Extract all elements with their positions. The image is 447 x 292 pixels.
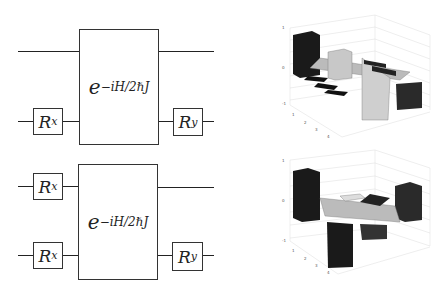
ry-gate: Ry xyxy=(172,242,203,271)
bar3d-chart xyxy=(280,146,447,292)
z-tick: -1 xyxy=(282,238,286,243)
x-tick: 4 xyxy=(327,134,330,139)
rx-gate: Rx xyxy=(33,108,63,135)
ry-gate: Ry xyxy=(173,108,203,136)
density-matrix-plot-bottom: 1 0 -1 1 2 3 4 xyxy=(280,146,447,292)
qubit-wire-1-left xyxy=(18,51,79,52)
qubit-wire-1-left-b xyxy=(63,186,79,187)
z-tick: -1 xyxy=(282,101,286,106)
density-matrix-plot-top: 1 0 -1 1 2 3 4 xyxy=(280,0,447,146)
qubit-wire-2-right-a xyxy=(158,121,173,122)
circuit-bottom: Rx Rx e−iH/2ℏJ Ry xyxy=(0,146,230,292)
qubit-wire-1-left-a xyxy=(18,186,33,187)
z-tick: 1 xyxy=(282,25,285,30)
rx-gate-qubit-1: Rx xyxy=(33,173,63,200)
qubit-wire-2-left-a xyxy=(18,121,33,122)
qubit-wire-2-left-a xyxy=(18,255,33,256)
z-tick: 0 xyxy=(282,198,285,203)
x-tick: 3 xyxy=(315,127,318,132)
qubit-wire-2-right-b xyxy=(203,121,214,122)
x-tick: 1 xyxy=(292,248,295,253)
x-tick: 3 xyxy=(315,263,318,268)
z-tick: 1 xyxy=(282,158,285,163)
z-tick: 0 xyxy=(282,65,285,70)
unitary-evolution-gate: e−iH/2ℏJ xyxy=(79,29,159,145)
qubit-wire-1-right xyxy=(158,187,214,188)
circuit-top: Rx e−iH/2ℏJ Ry xyxy=(0,0,230,146)
qubit-wire-2-right-a xyxy=(158,255,173,256)
qubit-wire-2-left-b xyxy=(63,121,79,122)
x-tick: 1 xyxy=(292,112,295,117)
x-tick: 4 xyxy=(327,270,330,275)
unitary-evolution-gate: e−iH/2ℏJ xyxy=(78,164,158,280)
qubit-wire-1-right xyxy=(158,51,214,52)
qubit-wire-2-left-b xyxy=(63,255,79,256)
qubit-wire-2-right-b xyxy=(203,255,214,256)
rx-gate-qubit-2: Rx xyxy=(33,242,63,269)
x-tick: 2 xyxy=(304,256,307,261)
x-tick: 2 xyxy=(304,120,307,125)
